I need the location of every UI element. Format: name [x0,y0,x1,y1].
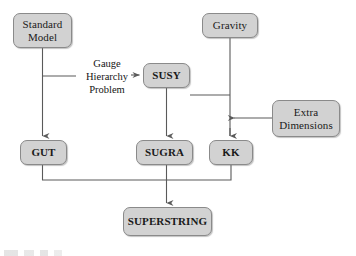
node-gut[interactable]: GUT [20,140,67,165]
node-gravity[interactable]: Gravity [202,13,258,38]
node-kk[interactable]: KK [209,140,253,165]
node-superstring[interactable]: SUPERSTRING [123,207,212,236]
node-kk-label: KK [210,146,252,159]
diagram-canvas: Standard Model Gravity SUSY Extra Dimens… [0,0,356,256]
scan-artifact [4,250,82,256]
node-susy[interactable]: SUSY [143,63,190,88]
node-extra-dimensions-label: Extra Dimensions [273,106,339,131]
node-gravity-label: Gravity [203,19,257,32]
edge-bottom-bus [43,165,232,180]
node-standard-model[interactable]: Standard Model [13,13,72,48]
node-susy-label: SUSY [144,69,189,82]
node-standard-model-label: Standard Model [14,18,71,43]
node-sugra[interactable]: SUGRA [136,140,193,165]
node-gut-label: GUT [21,146,66,159]
node-extra-dimensions[interactable]: Extra Dimensions [272,100,340,137]
annotation-gauge-hierarchy-problem: Gauge Hierarchy Problem [76,57,138,96]
node-sugra-label: SUGRA [137,146,192,159]
node-superstring-label: SUPERSTRING [124,215,211,228]
